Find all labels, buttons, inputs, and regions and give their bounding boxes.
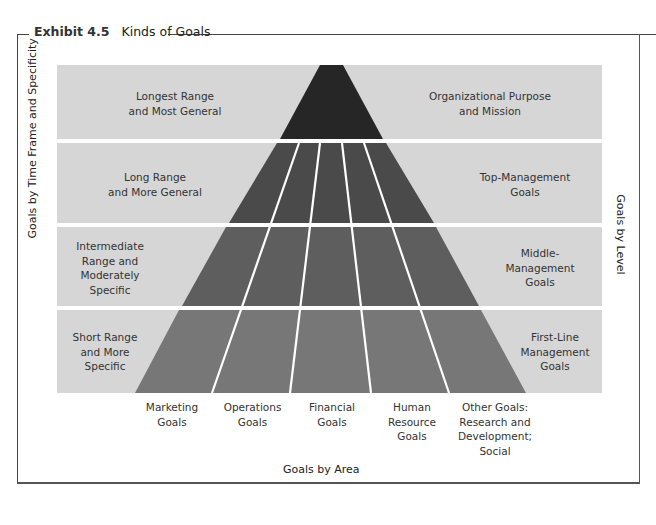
label-line: Organizational Purpose [405,89,575,104]
label-line: Goals [377,429,447,444]
label-line: Development; [450,429,540,444]
label-line: Longest Range [100,89,250,104]
label-line: Management [490,261,590,276]
pyramid-tier-4 [135,310,526,393]
label-line: Operations [215,400,290,415]
label-line: and More General [80,185,230,200]
level-label-3: Middle- Management Goals [490,246,590,290]
label-line: and Most General [100,104,250,119]
level-label-4: First-Line Management Goals [510,330,600,374]
label-line: Goals [137,415,207,430]
label-line: Short Range [55,330,155,345]
axis-label-right: Goals by Level [614,194,627,274]
area-label-marketing: Marketing Goals [137,400,207,429]
area-label-human-resource: Human Resource Goals [377,400,447,444]
level-label-1: Organizational Purpose and Mission [405,89,575,118]
pyramid-tier-3 [182,227,479,306]
label-line: Goals [510,359,600,374]
label-line: First-Line [510,330,600,345]
level-label-2: Top-Management Goals [455,170,595,199]
time-frame-label-4: Short Range and More Specific [55,330,155,374]
label-line: and More [55,345,155,360]
label-line: Top-Management [455,170,595,185]
area-label-operations: Operations Goals [215,400,290,429]
label-line: Specific [55,359,155,374]
label-line: Human [377,400,447,415]
label-line: Middle- [490,246,590,261]
label-line: Goals [215,415,290,430]
label-line: Other Goals: [450,400,540,415]
label-line: Goals [297,415,367,430]
label-line: Financial [297,400,367,415]
label-line: Long Range [80,170,230,185]
label-line: Goals [490,275,590,290]
label-line: Management [510,345,600,360]
label-line: Goals [455,185,595,200]
label-line: Range and [55,254,165,269]
time-frame-label-2: Long Range and More General [80,170,230,199]
label-line: Specific [55,283,165,298]
label-line: Social [450,444,540,459]
time-frame-label-3: Intermediate Range and Moderately Specif… [55,239,165,297]
label-line: and Mission [405,104,575,119]
area-label-other: Other Goals: Research and Development; S… [450,400,540,458]
label-line: Intermediate [55,239,165,254]
label-line: Marketing [137,400,207,415]
label-line: Research and [450,415,540,430]
label-line: Resource [377,415,447,430]
time-frame-label-1: Longest Range and Most General [100,89,250,118]
area-label-financial: Financial Goals [297,400,367,429]
label-line: Moderately [55,268,165,283]
axis-label-bottom: Goals by Area [283,463,360,476]
